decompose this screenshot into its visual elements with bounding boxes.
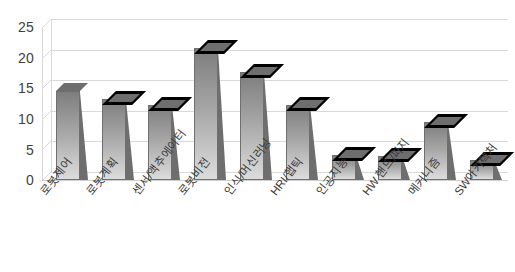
bar-chart: 25 20 15 10 5 0 [0, 0, 515, 272]
x-tick-label-hri-haptics: HRI/햅틱 [268, 155, 305, 197]
x-tick-label-robot-vision: 로봇비전 [176, 156, 212, 198]
x-tick-label-mechanism: 메커니즘 [406, 156, 442, 198]
x-tick-label-robot-control: 로봇제어 [38, 156, 74, 198]
x-tick-label-sw-architecture: SW아키텍처 [452, 141, 500, 197]
x-tick-label-artificial-intelligence: 인공지능 [314, 156, 350, 198]
x-tick-label-hw-hand-grasping: HW 핸드/파지 [360, 136, 412, 198]
x-tick-label-robot-planning: 로봇계획 [84, 156, 120, 198]
x-tick-label-recognition-ml: 인식/머신러닝 [222, 136, 274, 197]
x-axis-labels: 로봇제어 로봇계획 센서/액추에이터 로봇비전 인식/머신러닝 HRI/햅틱 인… [0, 0, 515, 272]
